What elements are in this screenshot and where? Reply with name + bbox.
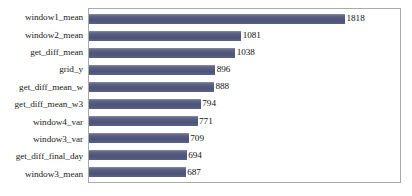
category-label-row: get_diff_mean_w3: [0, 96, 86, 113]
bar-value-label: 687: [187, 168, 201, 177]
bar-value-label: 1081: [243, 31, 261, 40]
bar-row: 1818: [89, 10, 400, 27]
bar-row: 1038: [89, 44, 400, 61]
category-label-row: window3_mean: [0, 166, 86, 183]
bar: [89, 99, 201, 109]
category-label-row: window2_mean: [0, 26, 86, 43]
bar: [89, 48, 235, 58]
bar: [89, 116, 198, 126]
bar-row: 694: [89, 147, 400, 164]
category-label: grid_y: [59, 65, 83, 74]
bar-value-label: 771: [199, 117, 213, 126]
bar: [89, 65, 215, 75]
category-label: window3_mean: [25, 170, 83, 179]
category-label: get_diff_mean: [30, 48, 83, 57]
horizontal-bar-chart: window1_mean window2_mean get_diff_mean …: [0, 0, 412, 196]
bar: [89, 167, 186, 177]
category-label: window3_var: [33, 135, 83, 144]
bar-value-label: 1038: [237, 48, 255, 57]
category-label-row: window4_var: [0, 113, 86, 130]
category-label-row: get_diff_final_day: [0, 148, 86, 165]
bar-row: 794: [89, 95, 400, 112]
bar-value-label: 896: [217, 65, 231, 74]
category-label: window1_mean: [25, 13, 83, 22]
category-label: window2_mean: [25, 31, 83, 40]
bar: [89, 14, 345, 24]
category-label-row: grid_y: [0, 61, 86, 78]
bar: [89, 133, 189, 143]
bar-row: 709: [89, 130, 400, 147]
category-label: window4_var: [33, 118, 83, 127]
bar-value-label: 1818: [347, 14, 365, 23]
bar-row: 896: [89, 61, 400, 78]
bar-value-label: 888: [216, 82, 230, 91]
bar: [89, 31, 241, 41]
category-axis-labels: window1_mean window2_mean get_diff_mean …: [0, 9, 86, 183]
plot-area: 1818 1081 1038 896 888 794: [88, 8, 401, 183]
category-label-row: window1_mean: [0, 9, 86, 26]
bar: [89, 150, 187, 160]
category-label-row: window3_var: [0, 131, 86, 148]
bar-row: 888: [89, 78, 400, 95]
bar-row: 1081: [89, 27, 400, 44]
category-label-row: get_diff_mean_w: [0, 79, 86, 96]
bar-value-label: 709: [190, 134, 204, 143]
category-label: get_diff_final_day: [16, 152, 83, 161]
plot-inner: 1818 1081 1038 896 888 794: [89, 10, 400, 181]
category-label: get_diff_mean_w3: [15, 100, 83, 109]
bar-value-label: 794: [202, 99, 216, 108]
bar-value-label: 694: [188, 151, 202, 160]
bar: [89, 82, 214, 92]
category-label: get_diff_mean_w: [19, 83, 83, 92]
bar-row: 771: [89, 113, 400, 130]
category-label-row: get_diff_mean: [0, 44, 86, 61]
bar-row: 687: [89, 164, 400, 181]
